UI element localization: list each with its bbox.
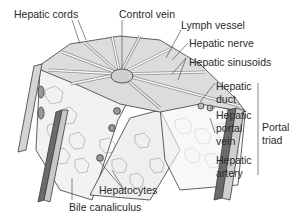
label-hepatic-artery-line1: Hepatic: [216, 155, 252, 166]
label-portal-triad: Portal triad: [262, 122, 289, 146]
label-hepatic-artery: Hepatic artery: [216, 155, 252, 179]
label-lymph-vessel: Lymph vessel: [181, 20, 245, 31]
label-portal-triad-line1: Portal: [262, 122, 289, 133]
label-hepatic-duct: Hepatic duct: [216, 81, 252, 105]
label-hepatic-sinusoids: Hepatic sinusoids: [189, 57, 271, 68]
label-hepatic-duct-line1: Hepatic: [216, 81, 252, 92]
label-hepatic-cords: Hepatic cords: [14, 9, 78, 20]
label-hepatic-portal-vein-line1: Hepatic: [216, 110, 252, 121]
label-portal-triad-line2: triad: [262, 135, 289, 146]
label-hepatic-artery-line2: artery: [216, 168, 252, 179]
label-hepatic-duct-line2: duct: [216, 94, 252, 105]
central-vein: [111, 69, 133, 83]
label-hepatic-portal-vein-line2: portal: [216, 123, 252, 134]
label-bile-canaliculus: Bile canaliculus: [69, 202, 141, 213]
label-hepatic-portal-vein-line3: vein: [216, 136, 252, 147]
label-control-vein: Control vein: [119, 9, 175, 20]
label-hepatic-portal-vein: Hepatic portal vein: [216, 110, 252, 147]
label-hepatocytes: Hepatocytes: [99, 185, 157, 196]
label-hepatic-nerve: Hepatic nerve: [189, 38, 254, 49]
